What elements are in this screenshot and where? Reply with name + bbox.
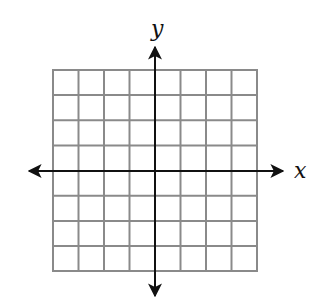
y-axis-label: y <box>150 16 164 41</box>
coordinate-plane: y x <box>0 0 331 306</box>
x-axis-label: x <box>294 158 307 183</box>
